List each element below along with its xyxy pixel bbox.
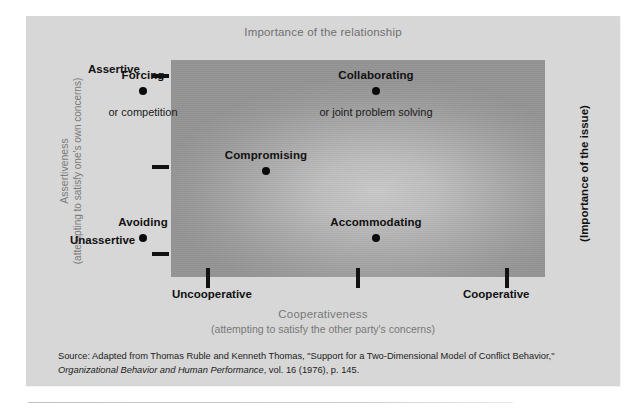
data-point-marker bbox=[372, 234, 380, 242]
x-tick-uncooperative bbox=[206, 268, 210, 288]
source-note-suffix: , vol. 16 (1976), p. 145. bbox=[264, 365, 360, 375]
data-point-label: Forcing bbox=[48, 70, 238, 82]
bottom-axis-subtitle: (attempting to satisfy the other party's… bbox=[26, 323, 620, 335]
data-point-marker bbox=[139, 87, 147, 95]
source-note-journal: Organizational Behavior and Human Perfor… bbox=[58, 365, 264, 375]
data-point-collaborating[interactable]: Collaborating or joint problem solving bbox=[281, 70, 471, 118]
y-tick-middle bbox=[152, 165, 169, 169]
data-point-avoiding[interactable]: Avoiding bbox=[48, 217, 238, 242]
data-point-label: Avoiding bbox=[48, 217, 238, 229]
x-axis-label-cooperative: Cooperative bbox=[463, 288, 529, 300]
data-point-label: Accommodating bbox=[281, 217, 471, 229]
y-tick-unassertive bbox=[152, 252, 169, 256]
data-point-label: Collaborating bbox=[281, 70, 471, 82]
figure-panel: Importance of the relationship Assertive… bbox=[26, 16, 620, 386]
x-tick-middle bbox=[356, 268, 360, 288]
data-point-compromising[interactable]: Compromising bbox=[171, 150, 361, 175]
data-point-sublabel: or competition bbox=[48, 107, 238, 118]
top-axis-title: Importance of the relationship bbox=[26, 26, 620, 38]
x-axis-label-uncooperative: Uncooperative bbox=[172, 288, 252, 300]
right-axis-group: (Importance of the issue) bbox=[586, 56, 610, 291]
source-note: Source: Adapted from Thomas Ruble and Ke… bbox=[58, 349, 598, 378]
data-point-sublabel: or joint problem solving bbox=[281, 107, 471, 118]
data-point-marker bbox=[262, 167, 270, 175]
right-axis-title: (Importance of the issue) bbox=[578, 56, 590, 291]
data-point-forcing[interactable]: Forcing or competition bbox=[48, 70, 238, 118]
data-point-marker bbox=[372, 87, 380, 95]
data-point-label: Compromising bbox=[171, 150, 361, 162]
data-point-marker bbox=[139, 234, 147, 242]
bottom-axis-title: Cooperativeness bbox=[26, 308, 620, 320]
bottom-axis-group: Cooperativeness (attempting to satisfy t… bbox=[26, 308, 620, 335]
plot-area: Forcing or competition Collaborating or … bbox=[171, 60, 545, 277]
source-note-prefix: Source: Adapted from Thomas Ruble and Ke… bbox=[58, 351, 555, 361]
data-point-accommodating[interactable]: Accommodating bbox=[281, 217, 471, 242]
bottom-divider-rule bbox=[28, 402, 513, 403]
x-tick-cooperative bbox=[505, 268, 509, 288]
